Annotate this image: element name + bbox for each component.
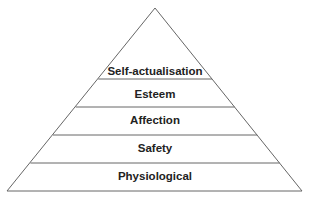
- level-label-safety: Safety: [138, 142, 173, 154]
- level-label-self-actualisation: Self-actualisation: [107, 65, 202, 77]
- pyramid-diagram: Self-actualisation Esteem Affection Safe…: [0, 0, 318, 202]
- level-label-affection: Affection: [130, 114, 180, 126]
- level-label-physiological: Physiological: [118, 170, 192, 182]
- level-label-esteem: Esteem: [135, 88, 176, 100]
